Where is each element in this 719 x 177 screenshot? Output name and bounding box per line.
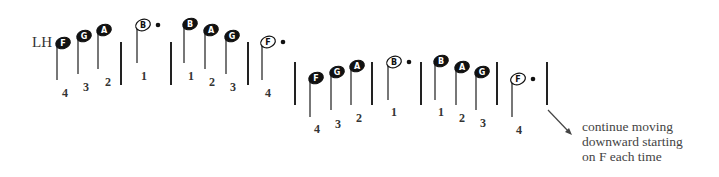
note-f: F xyxy=(54,35,72,80)
note-b: B xyxy=(385,54,411,100)
caption-line-2: downward starting xyxy=(582,134,683,149)
finger-number: 2 xyxy=(356,111,362,126)
finger-number: 2 xyxy=(209,75,215,90)
note-a: A xyxy=(453,59,471,105)
finger-number: 3 xyxy=(230,80,236,95)
finger-number: 3 xyxy=(480,116,486,131)
note-letter: G xyxy=(334,68,341,77)
finger-number: 4 xyxy=(516,123,522,138)
finger-number: 1 xyxy=(188,69,194,84)
note-g: G xyxy=(75,28,93,74)
finger-number: 3 xyxy=(335,117,341,132)
finger-number: 1 xyxy=(391,105,397,120)
note-b: B xyxy=(432,53,450,100)
finger-number: 4 xyxy=(314,122,320,137)
note-g: G xyxy=(223,28,241,74)
note-letter: A xyxy=(459,63,466,72)
note-letter: B xyxy=(187,20,193,29)
finger-number: 1 xyxy=(438,105,444,120)
note-letter: F xyxy=(313,74,318,83)
note-f: F xyxy=(259,34,285,80)
note-f: F xyxy=(307,70,325,117)
note-b: B xyxy=(134,17,160,63)
note-letter: A xyxy=(208,26,215,35)
instruction-caption: continue moving downward starting on F e… xyxy=(582,119,683,164)
note-letter: F xyxy=(515,75,520,84)
note-letter: G xyxy=(479,68,486,77)
note-letter: F xyxy=(60,39,65,48)
note-a: A xyxy=(95,22,113,69)
note-f: F xyxy=(509,71,535,117)
dot-icon xyxy=(281,40,286,45)
note-letter: B xyxy=(391,58,397,67)
finger-number: 3 xyxy=(83,80,89,95)
finger-number: 4 xyxy=(265,86,271,101)
caption-line-3: on F each time xyxy=(582,149,683,164)
finger-number: 4 xyxy=(62,86,68,101)
dot-icon xyxy=(531,77,536,82)
note-letter: A xyxy=(101,26,108,35)
note-a: A xyxy=(202,22,220,69)
note-letter: F xyxy=(265,38,270,47)
caption-line-1: continue moving xyxy=(582,119,683,134)
note-letter: B xyxy=(438,57,444,66)
dot-icon xyxy=(156,23,161,28)
finger-number: 1 xyxy=(141,69,147,84)
finger-number: 2 xyxy=(105,75,111,90)
note-g: G xyxy=(328,64,346,110)
note-a: A xyxy=(348,58,366,105)
arrow-icon xyxy=(548,110,572,135)
note-letter: A xyxy=(354,62,361,71)
note-b: B xyxy=(181,16,199,63)
finger-number: 2 xyxy=(459,111,465,126)
note-letter: B xyxy=(140,21,146,30)
dot-icon xyxy=(407,60,412,65)
note-g: G xyxy=(473,64,491,110)
note-letter: G xyxy=(229,32,236,41)
note-letter: G xyxy=(81,32,88,41)
